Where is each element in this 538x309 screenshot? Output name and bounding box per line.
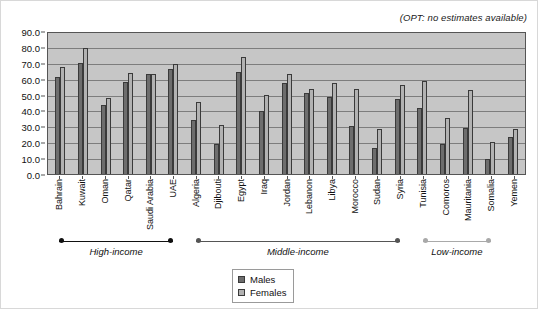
bar-females bbox=[445, 118, 450, 174]
bar-group bbox=[162, 33, 185, 174]
x-axis-tick-label: Iraq bbox=[259, 179, 269, 195]
bar-group bbox=[230, 33, 253, 174]
x-axis-cell: Tunisia bbox=[412, 177, 435, 235]
y-axis-tick-label: 20.0 bbox=[22, 138, 41, 149]
income-group-label: High-income bbox=[59, 246, 173, 257]
legend-item: Males bbox=[238, 273, 286, 286]
bar-females bbox=[128, 73, 133, 174]
y-axis-tick-label: 70.0 bbox=[22, 58, 41, 69]
bracket-dot-right bbox=[486, 238, 491, 243]
bracket-dot-right bbox=[168, 238, 173, 243]
bar-females bbox=[151, 74, 156, 174]
x-axis-tick-label: UAE bbox=[168, 179, 178, 198]
x-axis-cell: Somalia bbox=[480, 177, 503, 235]
bar-females bbox=[60, 67, 65, 174]
bar-females bbox=[377, 129, 382, 174]
bar-group bbox=[298, 33, 321, 174]
x-axis-tick-label: Somalia bbox=[486, 179, 496, 212]
y-axis: 0.010.020.030.040.050.060.070.080.090.0 bbox=[1, 32, 45, 175]
bar-series-container bbox=[48, 33, 525, 174]
x-axis-tick-label: Jordan bbox=[282, 179, 292, 207]
bar-females bbox=[513, 129, 518, 174]
x-axis-cell: Mauritania bbox=[457, 177, 480, 235]
x-axis-cell: Jordan bbox=[275, 177, 298, 235]
y-axis-tick-label: 50.0 bbox=[22, 90, 41, 101]
x-axis-tick-label: Tunisia bbox=[418, 179, 428, 208]
y-axis-tick-mark bbox=[41, 111, 45, 112]
x-axis-cell: Bahrain bbox=[48, 177, 71, 235]
plot-area bbox=[47, 32, 526, 175]
legend-swatch bbox=[238, 276, 245, 283]
x-axis-cell: Algeria bbox=[184, 177, 207, 235]
x-axis-cell: Oman bbox=[93, 177, 116, 235]
bar-group bbox=[49, 33, 72, 174]
bar-females bbox=[400, 85, 405, 174]
y-axis-tick-mark bbox=[41, 95, 45, 96]
x-axis-tick-label: Egypt bbox=[236, 179, 246, 202]
x-axis-cell: Lebanon bbox=[298, 177, 321, 235]
y-axis-tick-mark bbox=[41, 127, 45, 128]
x-axis-cell: Egypt bbox=[230, 177, 253, 235]
x-axis-cell: Comoros bbox=[434, 177, 457, 235]
bracket-rule bbox=[423, 241, 491, 242]
chart-annotation: (OPT: no estimates available) bbox=[400, 12, 527, 23]
bar-group bbox=[185, 33, 208, 174]
y-axis-tick-label: 90.0 bbox=[22, 27, 41, 38]
x-axis-cell: Iraq bbox=[252, 177, 275, 235]
y-axis-tick-label: 30.0 bbox=[22, 122, 41, 133]
legend-swatch bbox=[238, 289, 245, 296]
bar-group bbox=[434, 33, 457, 174]
bar-group bbox=[94, 33, 117, 174]
bar-group bbox=[321, 33, 344, 174]
x-axis-tick-label: Yemen bbox=[509, 179, 519, 207]
bar-females bbox=[196, 102, 201, 174]
bracket-rule bbox=[196, 241, 400, 242]
bar-females bbox=[106, 98, 111, 174]
income-group-high-income: High-income bbox=[59, 237, 173, 263]
y-axis-tick-label: 60.0 bbox=[22, 74, 41, 85]
chart-legend: MalesFemales bbox=[232, 269, 294, 303]
income-group-middle-income: Middle-income bbox=[196, 237, 400, 263]
bar-females bbox=[422, 81, 427, 174]
bracket-dot-left bbox=[423, 238, 428, 243]
x-axis-cell: Sudan bbox=[366, 177, 389, 235]
bar-group bbox=[411, 33, 434, 174]
bar-group bbox=[479, 33, 502, 174]
bar-females bbox=[219, 125, 224, 174]
x-axis-cell: Libya bbox=[321, 177, 344, 235]
bar-group bbox=[456, 33, 479, 174]
y-axis-tick-mark bbox=[41, 143, 45, 144]
bar-females bbox=[83, 48, 88, 174]
x-axis-tick-label: Syria bbox=[395, 179, 405, 200]
bar-group bbox=[275, 33, 298, 174]
x-axis-labels: BahrainKuwaitOmanQatarSaudi ArabiaUAEAlg… bbox=[47, 177, 526, 235]
bar-group bbox=[253, 33, 276, 174]
bar-females bbox=[309, 89, 314, 174]
bracket-dot-left bbox=[59, 238, 64, 243]
bar-females bbox=[332, 83, 337, 174]
income-group-label: Low-income bbox=[423, 246, 491, 257]
bracket-rule bbox=[59, 241, 173, 242]
bar-group bbox=[502, 33, 525, 174]
bar-females bbox=[354, 89, 359, 174]
x-axis-cell: Djibouti bbox=[207, 177, 230, 235]
bar-group bbox=[366, 33, 389, 174]
bar-females bbox=[173, 64, 178, 174]
y-axis-tick-mark bbox=[41, 63, 45, 64]
x-axis-tick-label: Comoros bbox=[441, 179, 451, 216]
x-axis-cell: Saudi Arabia bbox=[139, 177, 162, 235]
legend-label: Females bbox=[250, 287, 286, 298]
x-axis-tick-label: Kuwait bbox=[77, 179, 87, 206]
bar-group bbox=[388, 33, 411, 174]
x-axis-tick-label: Algeria bbox=[191, 179, 201, 207]
x-axis-cell: Kuwait bbox=[71, 177, 94, 235]
legend-item: Females bbox=[238, 286, 286, 299]
y-axis-tick-label: 10.0 bbox=[22, 154, 41, 165]
bar-females bbox=[264, 95, 269, 174]
bar-females bbox=[490, 142, 495, 174]
y-axis-tick-mark bbox=[41, 47, 45, 48]
bar-group bbox=[72, 33, 95, 174]
income-group-low-income: Low-income bbox=[423, 237, 491, 263]
y-axis-tick-label: 80.0 bbox=[22, 42, 41, 53]
bracket-dot-right bbox=[395, 238, 400, 243]
